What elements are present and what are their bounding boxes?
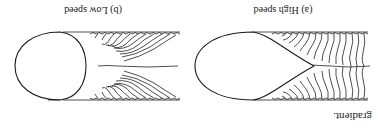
weld-pool-a	[195, 32, 314, 100]
caption-a: (a) High speed	[254, 4, 313, 16]
weld-pool-b	[15, 32, 86, 100]
figure-a-high-speed: (a) High speed	[195, 4, 370, 100]
weld-pool-figure: gradient.	[0, 0, 378, 128]
caption-b: (b) Low speed	[64, 4, 122, 16]
lead-text: gradient.	[333, 111, 372, 123]
paper-figure-page: gradient.	[0, 0, 378, 128]
figure-b-low-speed: (b) Low speed	[15, 4, 180, 100]
grain-lines-b	[90, 33, 180, 100]
